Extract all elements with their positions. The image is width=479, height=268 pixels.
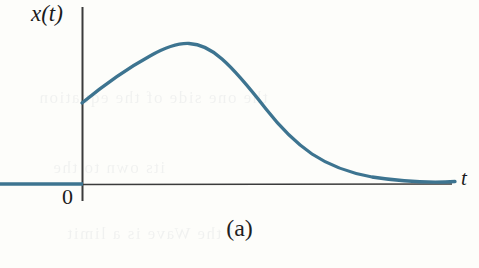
figure-caption: (a) <box>0 216 479 240</box>
y-axis-label: x(t) <box>31 2 63 25</box>
x-axis-label: t <box>461 168 467 189</box>
origin-label: 0 <box>62 186 73 208</box>
x-axis <box>82 184 452 185</box>
signal-curve <box>82 43 455 182</box>
figure-panel: the one side of the equation its own to … <box>0 0 479 268</box>
